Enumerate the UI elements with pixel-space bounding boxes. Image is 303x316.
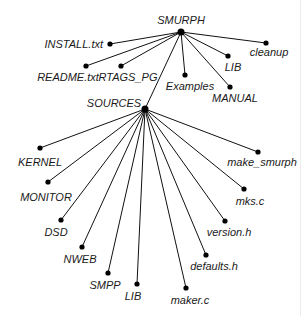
node-manual	[227, 84, 232, 89]
edge-sources-mks	[145, 109, 244, 189]
node-label-examples: Examples	[166, 80, 215, 92]
node-smpp	[105, 270, 110, 275]
node-maker	[183, 285, 188, 290]
node-readme	[83, 63, 88, 68]
node-label-lib_top: LIB	[225, 61, 242, 73]
node-mks	[241, 186, 246, 191]
node-lib_top	[225, 53, 230, 58]
node-label-monitor: MONITOR	[20, 191, 72, 203]
node-sources	[142, 106, 149, 113]
node-rtags	[118, 63, 123, 68]
edge-smurph-manual	[181, 32, 230, 87]
node-label-smpp: SMPP	[89, 279, 121, 291]
node-label-lib_src: LIB	[125, 290, 142, 302]
node-label-sources: SOURCES	[87, 97, 142, 109]
node-label-dsd: DSD	[44, 226, 67, 238]
edge-smurph-lib_top	[181, 32, 228, 56]
node-cleanup	[263, 40, 268, 45]
node-label-install: INSTALL.txt	[45, 38, 104, 50]
node-label-defaults: defaults.h	[190, 260, 238, 272]
node-kernel	[37, 145, 42, 150]
node-version	[222, 218, 227, 223]
node-nweb	[79, 244, 84, 249]
node-label-readme: README.txt	[37, 71, 100, 83]
node-label-nweb: NWEB	[64, 253, 97, 265]
tree-diagram: SMURPHINSTALL.txtREADME.txtRTAGS_PGExamp…	[0, 0, 303, 316]
node-label-mks: mks.c	[236, 195, 265, 207]
node-label-rtags: RTAGS_PG	[99, 71, 158, 83]
edge-sources-lib_src	[137, 109, 145, 284]
node-defaults	[203, 252, 208, 257]
node-label-smurph: SMURPH	[157, 14, 205, 26]
node-lib_src	[134, 281, 139, 286]
edge-sources-nweb	[82, 109, 145, 247]
node-label-maker: maker.c	[171, 294, 210, 306]
node-install	[107, 41, 112, 46]
node-examples	[182, 72, 187, 77]
edge-sources-maker	[145, 109, 186, 288]
edge-smurph-examples	[181, 32, 185, 75]
node-label-make_smurph: make_smurph	[227, 156, 297, 168]
edge-sources-monitor	[48, 109, 145, 182]
node-label-version: version.h	[207, 226, 252, 238]
node-label-kernel: KERNEL	[18, 156, 62, 168]
node-dsd	[58, 217, 63, 222]
edge-smurph-cleanup	[181, 32, 266, 43]
node-make_smurph	[255, 149, 260, 154]
node-monitor	[45, 179, 50, 184]
node-smurph	[178, 29, 185, 36]
edge-sources-make_smurph	[145, 109, 258, 152]
labels-layer: SMURPHINSTALL.txtREADME.txtRTAGS_PGExamp…	[18, 14, 297, 306]
node-label-manual: MANUAL	[212, 92, 258, 104]
node-label-cleanup: cleanup	[250, 46, 289, 58]
edge-sources-kernel	[40, 109, 145, 148]
